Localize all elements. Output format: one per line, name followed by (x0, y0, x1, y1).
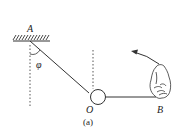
label-b: B (157, 104, 163, 115)
pendulum-diagram: A φ O B (a) (0, 0, 185, 140)
motion-arrow-icon (131, 50, 159, 65)
angle-arc (30, 50, 40, 55)
label-a: A (26, 23, 34, 34)
label-o: O (86, 104, 93, 115)
label-angle: φ (36, 59, 42, 70)
hand-icon (150, 65, 171, 99)
ball-o (91, 90, 106, 105)
caption: (a) (83, 117, 93, 127)
ceiling-support (13, 35, 50, 41)
